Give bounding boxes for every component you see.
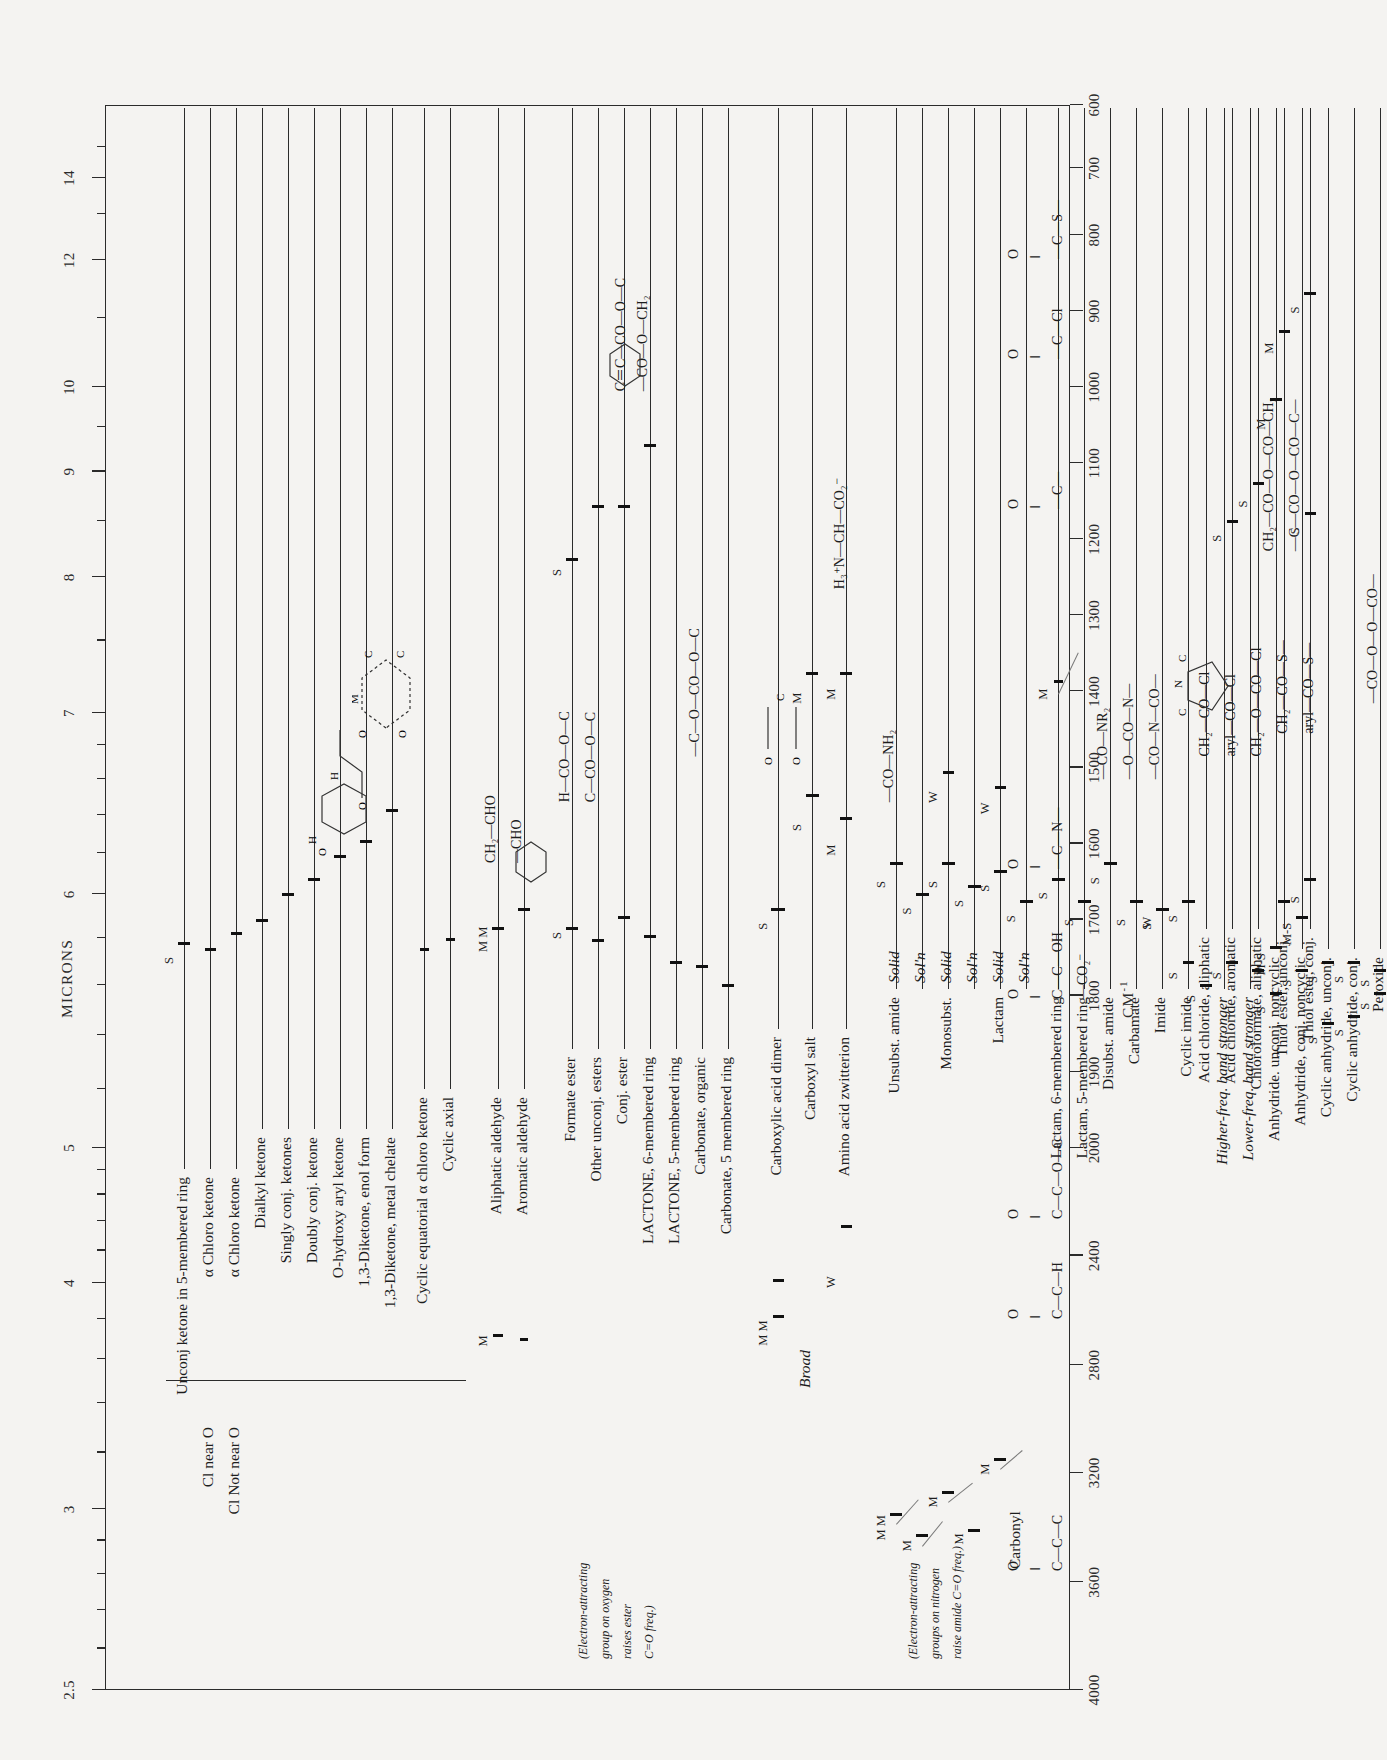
mark-l039: S — [1166, 915, 1181, 922]
axis-tick — [1070, 538, 1083, 539]
axis-tick — [1070, 842, 1083, 843]
bar-l017-0 — [592, 939, 604, 942]
bar-l049-0 — [1252, 969, 1264, 972]
bar-l016-0 — [566, 927, 578, 930]
bar-nh-3-m: M — [926, 1496, 941, 1507]
formula-5-0: O — [1006, 499, 1022, 509]
axis-tick — [97, 852, 105, 853]
svg-text:O: O — [316, 848, 328, 856]
axis-tick — [97, 1318, 105, 1319]
mark-l014: M M — [476, 927, 491, 952]
formula-1-0: O — [1006, 1309, 1022, 1319]
label-l039: Cyclic imide — [1177, 989, 1195, 1689]
bar-nh-5-m: M — [978, 1464, 993, 1475]
acidhalide-row-line-1 — [1232, 108, 1233, 929]
axis-tick — [97, 520, 105, 521]
svg-text:C: C — [1176, 709, 1188, 716]
bar-l039-0 — [1182, 900, 1195, 903]
extra-structure-x009: —CO—NH₂ — [881, 730, 897, 803]
formula-co2: —CO₂⁻ — [1074, 954, 1091, 999]
mark-l031-2: S — [926, 881, 941, 888]
axis-tick — [92, 712, 105, 713]
label-l020: LACTONE, 5-membered ring — [665, 1049, 683, 1689]
bar-l004 — [231, 932, 242, 935]
label-l012: Cyclic equatorial α chloro ketone — [413, 1089, 431, 1689]
ketone-row-line-10 — [450, 108, 451, 1089]
ester-row-line-2 — [624, 108, 625, 1049]
svg-text:C: C — [362, 650, 374, 657]
acid-row-line-1 — [812, 108, 813, 1029]
axis-tick — [1070, 462, 1083, 463]
extra-structure-x018: CH₂—O—CO—Cl — [1249, 647, 1265, 756]
axis-tick — [97, 1034, 105, 1035]
label-l032-4: Lactam — [989, 989, 1007, 1689]
microns-tick-label: 2.5 — [61, 1680, 78, 1699]
axis-tick — [92, 1508, 105, 1509]
axis-tick — [92, 1689, 105, 1690]
amide2-row-line-1 — [1084, 108, 1085, 989]
ketone-row-line-7 — [366, 108, 367, 1129]
label-l037: Carbamate — [1125, 989, 1143, 1689]
axis-tick — [1070, 167, 1083, 168]
label-l036: Disubst. amide — [1099, 989, 1117, 1689]
amide-row-line-5 — [1026, 108, 1027, 989]
bar2-l025-0 — [618, 505, 630, 508]
ketone-spine — [166, 1380, 466, 1381]
microns-tick-label: 7 — [61, 709, 78, 717]
bar-l027-c — [773, 1315, 784, 1318]
bar-nh-5b — [995, 786, 1006, 789]
anhydride-row-line-4 — [1380, 108, 1381, 949]
label-l007: Singly conj. ketones — [277, 1129, 295, 1689]
axis-tick — [92, 576, 105, 577]
extra-structure-x011: —O—CO—N— — [1121, 684, 1137, 780]
axis-tick — [97, 1249, 105, 1250]
aldehyde-row-line-0 — [498, 108, 499, 1089]
formula-4-0: O — [1006, 859, 1022, 869]
axis-tick — [92, 1282, 105, 1283]
microns-tick-label: 3 — [61, 1505, 78, 1513]
note-amide-2: groups on nitrogen — [928, 1568, 943, 1659]
microns-tick-label: 10 — [61, 379, 78, 394]
bar-l001-0 — [178, 942, 190, 945]
mark-l046-1815: S — [1358, 1003, 1373, 1010]
mark-l016: S — [550, 932, 565, 939]
mark-l046-1785: S — [1358, 980, 1373, 987]
bar-l039-b — [1183, 961, 1194, 964]
extra-structure-x012: —CO—N—CO— — [1147, 674, 1163, 779]
axis-tick — [92, 259, 105, 260]
microns-tick-label: 14 — [61, 170, 78, 185]
bar-l028-a — [806, 794, 819, 797]
axis-tick — [97, 814, 105, 815]
mark-l032-5: S — [1004, 915, 1019, 922]
extra-structure-x019: CH₂—CO—S— — [1275, 640, 1291, 734]
ketone-row-line-2 — [236, 108, 237, 1169]
label-l044: Cyclic anhydride, unconj. — [1317, 949, 1335, 1689]
mark-l029-b: M — [824, 689, 839, 700]
svg-text:C: C — [1176, 655, 1188, 662]
state-s002: Sol'n — [911, 952, 929, 983]
bar-l045-0 — [1348, 1015, 1360, 1018]
bar-l027-b — [773, 1279, 784, 1282]
bar-l029-b — [840, 672, 852, 675]
bar-nh-5b-m: W — [978, 802, 993, 814]
label-l005: Cl Not near O — [225, 1419, 243, 1689]
bar-l037-0 — [1130, 900, 1143, 903]
amide2-row-line-4 — [1162, 108, 1163, 989]
amide-row-line-4 — [1000, 108, 1001, 989]
label-l009: O-hydroxy aryl ketone — [329, 1129, 347, 1689]
axis-tick — [97, 1647, 105, 1648]
label-l038: Imide — [1151, 989, 1169, 1689]
bar-l014-b — [493, 1334, 503, 1337]
label-l029: Amino acid zwitterion — [835, 1029, 853, 1689]
mark-l039-b: S — [1166, 972, 1181, 979]
bar-l030-0-0 — [890, 862, 903, 865]
axis-tick — [97, 744, 105, 745]
label-l047: Acid chloride, aliphatic — [1195, 929, 1213, 1689]
ketone-row-line-1 — [210, 108, 211, 1169]
axis-tick — [97, 1088, 105, 1089]
amide2-row-line-3 — [1136, 108, 1137, 989]
bar-nh-4-m: M — [952, 1533, 967, 1544]
bar-l031-2-0 — [942, 862, 955, 865]
bar-l051-b — [1304, 292, 1316, 295]
